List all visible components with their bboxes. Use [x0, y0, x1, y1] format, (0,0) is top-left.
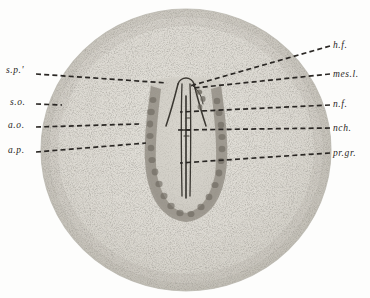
medullary-groove-right — [190, 84, 191, 196]
label-n-f: n.f. — [333, 100, 348, 110]
label-pr-gr: pr.gr. — [333, 149, 356, 159]
label-s-o: s.o. — [10, 98, 26, 108]
medullary-groove-left — [181, 84, 182, 196]
figure-illustration — [0, 0, 370, 298]
label-mes-l: mes.l. — [333, 70, 359, 80]
embryo-figure-plate: s.p.' s.o. a.o. a.p. h.f. mes.l. n.f. nc… — [0, 0, 370, 298]
label-a-o: a.o. — [8, 121, 25, 131]
label-a-p: a.p. — [8, 146, 25, 156]
label-s-p-prime: s.p.' — [6, 66, 24, 76]
label-nch: nch. — [333, 124, 352, 134]
label-h-f: h.f. — [333, 41, 348, 51]
